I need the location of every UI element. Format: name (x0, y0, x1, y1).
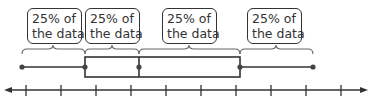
box (85, 57, 240, 77)
label-text: the data (252, 26, 297, 41)
label-text: 25% of (252, 11, 297, 26)
label-text: the data (167, 26, 212, 41)
label-box-1: 25% of the data (27, 8, 82, 44)
label-text: 25% of (167, 11, 212, 26)
quartile-braces (22, 45, 313, 54)
label-text: 25% of (32, 11, 77, 26)
max-point (310, 64, 315, 69)
q1-point (82, 64, 87, 69)
brace-4 (240, 45, 313, 54)
label-text: the data (90, 26, 135, 41)
median-point (136, 64, 141, 69)
brace-2 (85, 45, 139, 54)
left-arrow-icon (4, 87, 12, 93)
q3-point (237, 64, 242, 69)
right-arrow-icon (360, 87, 368, 93)
label-text: the data (32, 26, 77, 41)
min-point (19, 64, 24, 69)
brace-1 (22, 45, 85, 54)
label-text: 25% of (90, 11, 135, 26)
label-box-3: 25% of the data (162, 8, 217, 44)
label-box-2: 25% of the data (85, 8, 140, 44)
label-box-4: 25% of the data (247, 8, 302, 44)
brace-3 (139, 45, 240, 54)
